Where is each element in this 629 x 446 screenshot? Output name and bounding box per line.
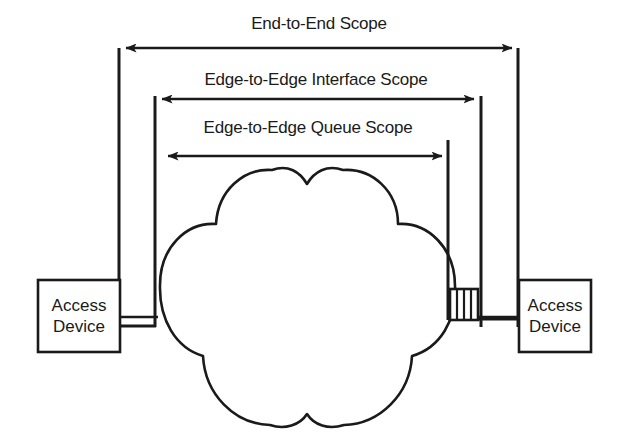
- access-device-right-label-line2: Device: [528, 316, 583, 337]
- network-cloud: [160, 168, 455, 427]
- network-scope-diagram: End-to-End Scope Edge-to-Edge Interface …: [0, 0, 629, 446]
- diagram-canvas: [0, 0, 629, 446]
- end-to-end-scope-label: End-to-End Scope: [251, 14, 387, 34]
- access-device-left-label-line1: Access: [52, 295, 107, 316]
- edge-to-edge-queue-scope-label: Edge-to-Edge Queue Scope: [204, 118, 413, 138]
- access-device-right-label: Access Device: [528, 295, 583, 337]
- queue-buffer-symbol: [450, 289, 478, 320]
- access-device-left-label-line2: Device: [52, 316, 107, 337]
- access-device-right-label-line1: Access: [528, 295, 583, 316]
- access-device-left-label: Access Device: [52, 295, 107, 337]
- edge-to-edge-interface-scope-label: Edge-to-Edge Interface Scope: [204, 70, 427, 90]
- cloud-outline: [160, 168, 455, 427]
